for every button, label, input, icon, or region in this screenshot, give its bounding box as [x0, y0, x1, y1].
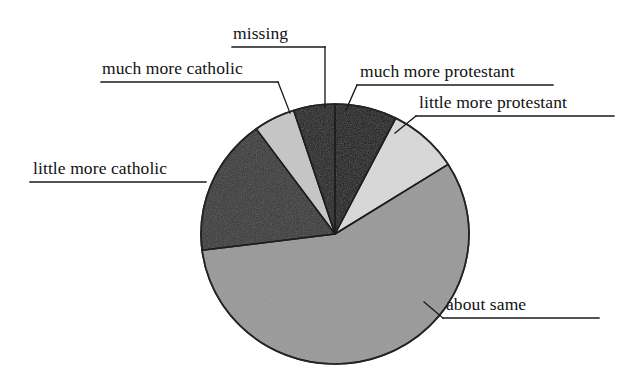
- slice-label-little-more-catholic: little more catholic: [33, 159, 167, 177]
- leader-much-more-catholic: [278, 82, 290, 113]
- slice-label-much-more-catholic: much more catholic: [102, 59, 243, 77]
- pie-chart-canvas: [0, 0, 628, 388]
- slice-label-missing: missing: [233, 24, 288, 42]
- pie-chart-figure: missing much more catholic much more pro…: [0, 0, 628, 388]
- slice-label-much-more-protestant: much more protestant: [360, 62, 515, 80]
- slice-label-about-same: about same: [446, 295, 526, 313]
- slice-label-little-more-protestant: little more protestant: [419, 93, 567, 111]
